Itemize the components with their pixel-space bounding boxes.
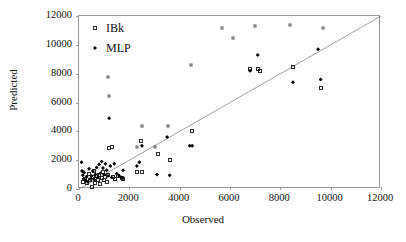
x-tick	[280, 187, 281, 190]
x-tick	[79, 187, 80, 190]
legend-label-ibk: IBk	[106, 21, 124, 36]
data-point	[254, 25, 257, 28]
data-point	[221, 26, 224, 29]
x-tick	[230, 187, 231, 190]
data-point	[139, 139, 143, 143]
legend-item-mlp: MLP	[90, 38, 131, 58]
data-point	[168, 158, 172, 162]
x-tick	[129, 187, 130, 190]
y-axis-title: Predicted	[7, 40, 19, 140]
data-point	[231, 36, 234, 39]
y-tick	[76, 74, 79, 75]
y-tick	[76, 189, 79, 190]
x-tick-label: 12000	[350, 192, 406, 204]
y-tick-label: 4000	[24, 124, 72, 136]
y-tick	[76, 16, 79, 17]
x-tick	[180, 187, 181, 190]
x-tick	[381, 187, 382, 190]
legend-marker-open-square	[90, 23, 100, 33]
legend-marker-filled-diamond	[90, 43, 100, 53]
data-point	[289, 23, 292, 26]
data-point	[106, 75, 109, 78]
scatter-plot-figure: Predicted 020004000600080001000012000 02…	[0, 0, 406, 242]
data-point	[135, 170, 139, 174]
y-tick-label: 10000	[24, 38, 72, 50]
data-point	[291, 65, 295, 69]
legend-item-ibk: IBk	[90, 18, 131, 38]
y-tick	[76, 131, 79, 132]
data-point	[189, 64, 192, 67]
data-point	[140, 125, 143, 128]
data-point	[156, 152, 160, 156]
data-point	[90, 185, 94, 189]
data-point	[167, 125, 170, 128]
y-tick-label: 8000	[24, 67, 72, 79]
data-point	[153, 146, 156, 149]
data-point	[190, 129, 194, 133]
data-point	[98, 182, 102, 186]
data-point	[135, 146, 138, 149]
data-point	[108, 95, 111, 98]
legend-label-mlp: MLP	[106, 41, 131, 56]
chart-legend: IBk MLP	[90, 18, 131, 58]
y-tick-label: 2000	[24, 153, 72, 165]
x-axis-title: Observed	[0, 213, 406, 225]
data-point	[319, 86, 323, 90]
y-tick	[76, 160, 79, 161]
data-point	[110, 145, 114, 149]
x-tick	[331, 187, 332, 190]
data-point	[258, 69, 262, 73]
data-point	[140, 170, 144, 174]
data-point	[322, 26, 325, 29]
y-tick-label: 6000	[24, 96, 72, 108]
data-point	[105, 180, 109, 184]
y-tick-label: 12000	[24, 9, 72, 21]
y-tick	[76, 45, 79, 46]
y-tick	[76, 103, 79, 104]
